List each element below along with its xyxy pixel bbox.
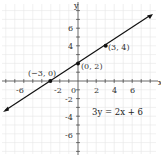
equation-label: 3y = 2x + 6: [92, 107, 143, 117]
x-tick-labels: -6 -2 0 2 4 6: [16, 86, 135, 95]
svg-text:4: 4: [68, 42, 73, 51]
svg-text:-6: -6: [65, 131, 73, 140]
svg-text:-4: -4: [65, 113, 73, 122]
svg-text:-2: -2: [65, 95, 73, 104]
svg-text:(3, 4): (3, 4): [108, 43, 130, 52]
x-axis-label: x: [158, 78, 161, 87]
svg-text:-6: -6: [16, 86, 24, 95]
arrow-right-icon: [147, 14, 153, 19]
svg-text:(−3, 0): (−3, 0): [28, 69, 56, 78]
svg-text:0: 0: [71, 86, 76, 95]
point-neg3-0: [48, 79, 52, 83]
chart: y x -6 -2 0 2 4 6 6 4 -2 -4 -6 (−3, 0) (…: [0, 0, 161, 156]
svg-text:4: 4: [112, 86, 117, 95]
point-0-2: [76, 61, 80, 65]
svg-text:6: 6: [130, 86, 135, 95]
svg-text:2: 2: [94, 86, 99, 95]
svg-text:-2: -2: [54, 86, 62, 95]
svg-text:6: 6: [68, 24, 73, 33]
y-axis-label: y: [73, 1, 79, 10]
svg-text:(0, 2): (0, 2): [81, 62, 103, 71]
